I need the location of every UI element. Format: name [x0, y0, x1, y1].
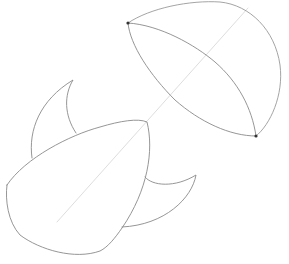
dome-lens-lower — [128, 23, 256, 136]
dome-lens-upper — [128, 23, 256, 136]
dome-endpoint-dot — [126, 21, 129, 24]
dome-endpoint-dot — [254, 134, 257, 137]
dome-outer-arc — [128, 2, 281, 136]
sketch-canvas — [0, 0, 289, 264]
body-teardrop — [6, 120, 149, 254]
lower-fin — [122, 175, 196, 227]
guide-axis-line — [57, 8, 248, 222]
